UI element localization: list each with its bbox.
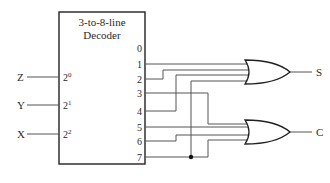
decoder-circuit-diagram: 3-to-8-line Decoder Z 20 Y 21 X 22 0 1 2… (0, 0, 330, 183)
decoder-title-line1: 3-to-8-line (78, 16, 125, 28)
input-label-z: Z (17, 71, 24, 83)
junction-dot (189, 155, 193, 159)
svg-text:6: 6 (137, 136, 142, 147)
svg-text:4: 4 (137, 106, 142, 117)
or-gate-c: C (245, 120, 323, 144)
input-z: Z 20 (17, 71, 72, 83)
input-x: X 22 (17, 128, 72, 140)
input-label-x: X (17, 128, 25, 140)
svg-text:1: 1 (137, 59, 142, 70)
svg-text:3: 3 (137, 88, 142, 99)
svg-text:7: 7 (137, 152, 142, 163)
svg-text:5: 5 (137, 122, 142, 133)
input-y: Y 21 (17, 99, 72, 111)
svg-text:2: 2 (137, 74, 142, 85)
or-gate-s: S (245, 60, 322, 84)
input-label-y: Y (17, 99, 25, 111)
decoder-title-line2: Decoder (83, 29, 121, 41)
svg-text:0: 0 (137, 43, 142, 54)
wires-to-s (145, 64, 252, 157)
output-label-c: C (316, 126, 323, 138)
wires-to-c (145, 93, 252, 157)
output-label-s: S (316, 66, 322, 78)
